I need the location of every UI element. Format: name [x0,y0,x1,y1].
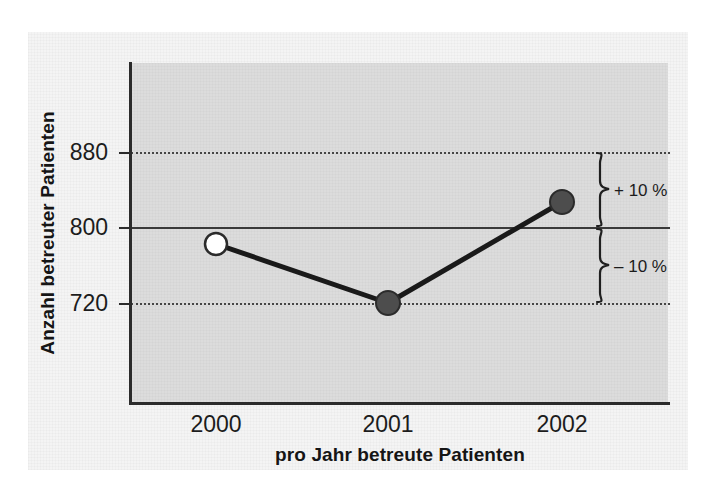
plot-area-background [131,63,668,403]
y-tick-label-720: 720 [38,290,108,317]
y-tick-mark-720 [119,303,132,305]
x-axis-line [129,402,670,405]
y-tick-mark-800 [119,227,132,229]
y-tick-label-880: 880 [38,139,108,166]
x-tick-label-2000: 2000 [156,411,276,438]
x-tick-label-2001: 2001 [328,411,448,438]
y-axis-line [129,62,132,405]
y-tick-mark-880 [119,152,132,154]
annotation-plus-10-percent: + 10 % [614,181,667,201]
annotation-minus-10-percent: – 10 % [614,257,667,277]
gridline-880 [131,152,670,154]
chart-figure: Anzahl betreuter Patienten 880 800 720 2… [0,0,717,493]
reference-line-800 [131,227,670,229]
y-tick-label-800: 800 [38,214,108,241]
x-tick-label-2002: 2002 [502,411,622,438]
gridline-720 [131,303,670,305]
x-axis-title: pro Jahr betreute Patienten [130,444,670,466]
